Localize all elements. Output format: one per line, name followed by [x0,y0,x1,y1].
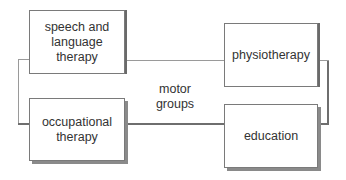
node-physiotherapy: physiotherapy [224,23,318,87]
node-label-line: physiotherapy [232,48,310,63]
connector-top [125,60,225,61]
center-label-motor-groups: motor groups [135,82,215,112]
node-label-line: therapy [45,50,110,65]
center-label-line: motor [135,82,215,97]
node-label-line: occupational [42,115,112,130]
connector-bottom [125,123,225,125]
node-label-line: speech and [45,20,110,35]
node-education: education [224,104,318,168]
node-speech-and-language-therapy: speech and language therapy [29,10,125,74]
connector-right-bottom-stub [318,123,329,125]
connector-right [327,61,329,125]
node-label-line: language [45,35,110,50]
center-label-line: groups [135,97,215,112]
node-occupational-therapy: occupational therapy [29,98,125,161]
connector-left [18,59,19,124]
node-label-line: education [244,129,298,144]
node-label-line: therapy [42,130,112,145]
